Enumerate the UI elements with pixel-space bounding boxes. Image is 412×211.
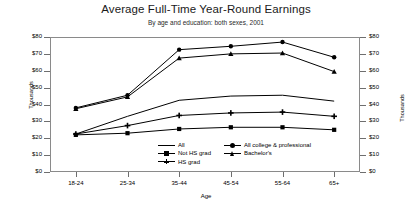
x-tick-label: 65+ bbox=[314, 180, 354, 186]
y-tick-label-left: $0 bbox=[20, 168, 42, 174]
y-tick-label-right: $0 bbox=[369, 168, 391, 174]
y-tick-mark-right bbox=[360, 155, 366, 156]
chart-container: Average Full-Time Year-Round Earnings By… bbox=[0, 0, 412, 211]
data-point-marker bbox=[125, 131, 129, 135]
chart-subtitle: By age and education: both sexes, 2001 bbox=[0, 19, 412, 26]
legend-marker-square-icon bbox=[164, 151, 169, 156]
y-tick-mark-left bbox=[44, 105, 50, 106]
series-line bbox=[76, 53, 334, 109]
y-tick-label-right: $10 bbox=[369, 151, 391, 157]
y-tick-mark-left bbox=[44, 138, 50, 139]
y-tick-label-right: $30 bbox=[369, 117, 391, 123]
y-tick-label-left: $30 bbox=[20, 117, 42, 123]
x-tick-mark bbox=[128, 172, 129, 177]
y-tick-mark-right bbox=[360, 138, 366, 139]
x-tick-mark bbox=[334, 172, 335, 177]
y-tick-mark-left bbox=[44, 88, 50, 89]
y-tick-label-left: $60 bbox=[20, 67, 42, 73]
y-tick-label-left: $20 bbox=[20, 134, 42, 140]
data-point-marker bbox=[280, 109, 286, 115]
x-tick-mark bbox=[283, 172, 284, 177]
y-tick-label-right: $80 bbox=[369, 33, 391, 39]
y-tick-label-left: $70 bbox=[20, 50, 42, 56]
x-axis-title: Age bbox=[0, 193, 412, 199]
series-all-college-professional bbox=[74, 40, 337, 110]
legend-item[interactable]: All bbox=[158, 141, 211, 149]
series-bachelor-s bbox=[73, 50, 337, 110]
y-axis-title-right: Thousands bbox=[399, 94, 405, 122]
legend-item[interactable]: All college & professional bbox=[224, 141, 311, 149]
legend-label: HS grad bbox=[178, 158, 200, 166]
legend-item[interactable]: Bachelor's bbox=[224, 149, 311, 157]
x-tick-mark bbox=[231, 172, 232, 177]
y-tick-mark-left bbox=[44, 155, 50, 156]
y-tick-mark-right bbox=[360, 88, 366, 89]
y-tick-mark-left bbox=[44, 54, 50, 55]
series-line bbox=[76, 127, 334, 135]
y-tick-label-right: $40 bbox=[369, 101, 391, 107]
y-tick-mark-right bbox=[360, 54, 366, 55]
data-point-marker bbox=[332, 128, 336, 132]
data-point-marker bbox=[125, 123, 131, 129]
legend-marker-plus-icon bbox=[164, 159, 169, 164]
legend-item[interactable]: HS grad bbox=[158, 158, 211, 166]
legend-column-2: All college & professionalBachelor's bbox=[224, 141, 311, 158]
legend-label: All college & professional bbox=[244, 141, 311, 149]
x-tick-mark bbox=[179, 172, 180, 177]
legend-label: Bachelor's bbox=[244, 149, 272, 157]
x-tick-label: 45-54 bbox=[211, 180, 251, 186]
data-point-marker bbox=[331, 114, 337, 120]
data-point-marker bbox=[280, 40, 284, 44]
legend-swatch bbox=[158, 141, 175, 149]
x-tick-label: 18-24 bbox=[56, 180, 96, 186]
y-tick-mark-right bbox=[360, 37, 366, 38]
x-tick-mark bbox=[76, 172, 77, 177]
series-line bbox=[76, 112, 334, 134]
y-tick-mark-left bbox=[44, 172, 50, 173]
data-point-marker bbox=[177, 47, 181, 51]
legend-marker-triangle-icon bbox=[230, 151, 234, 156]
series-not-hs-grad bbox=[74, 125, 337, 137]
x-tick-label: 25-34 bbox=[108, 180, 148, 186]
data-point-marker bbox=[228, 110, 234, 116]
y-tick-mark-left bbox=[44, 121, 50, 122]
y-tick-mark-left bbox=[44, 71, 50, 72]
data-point-marker bbox=[280, 125, 284, 129]
y-axis-title-left: Thousands bbox=[28, 81, 34, 109]
data-point-marker bbox=[332, 55, 336, 59]
x-tick-label: 55-64 bbox=[263, 180, 303, 186]
data-point-marker bbox=[229, 125, 233, 129]
legend-swatch bbox=[158, 158, 175, 166]
legend-swatch bbox=[224, 141, 241, 149]
y-tick-mark-left bbox=[44, 37, 50, 38]
y-tick-mark-right bbox=[360, 121, 366, 122]
y-tick-mark-right bbox=[360, 172, 366, 173]
legend-swatch bbox=[158, 150, 175, 158]
series-hs-grad bbox=[73, 109, 337, 137]
data-point-marker bbox=[229, 44, 233, 48]
chart-title: Average Full-Time Year-Round Earnings bbox=[0, 3, 412, 15]
legend-swatch bbox=[224, 150, 241, 158]
legend-column-1: AllNot HS gradHS grad bbox=[158, 141, 211, 166]
y-tick-mark-right bbox=[360, 71, 366, 72]
legend-label: All bbox=[178, 141, 185, 149]
data-point-marker bbox=[176, 113, 182, 119]
y-tick-label-right: $60 bbox=[369, 67, 391, 73]
y-tick-label-left: $80 bbox=[20, 33, 42, 39]
legend-label: Not HS grad bbox=[178, 149, 211, 157]
legend-marker-dot-icon bbox=[230, 143, 235, 148]
legend-line bbox=[158, 145, 175, 146]
legend-item[interactable]: Not HS grad bbox=[158, 149, 211, 157]
y-tick-label-right: $20 bbox=[369, 134, 391, 140]
y-tick-label-left: $10 bbox=[20, 151, 42, 157]
y-tick-label-right: $50 bbox=[369, 84, 391, 90]
y-tick-label-right: $70 bbox=[369, 50, 391, 56]
x-tick-label: 35-44 bbox=[159, 180, 199, 186]
y-tick-mark-right bbox=[360, 105, 366, 106]
data-point-marker bbox=[177, 127, 181, 131]
